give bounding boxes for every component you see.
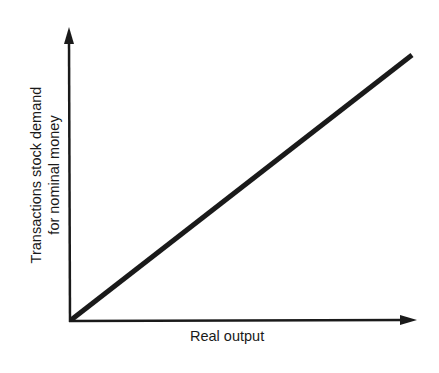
- x-axis-label: Real output: [190, 328, 264, 344]
- y-axis-label-line-2: for nominal money: [45, 87, 63, 264]
- demand-line: [71, 55, 412, 320]
- y-axis-label: Transactions stock demand for nominal mo…: [27, 87, 63, 264]
- y-axis-arrowhead-icon: [64, 27, 74, 44]
- x-axis-arrowhead-icon: [400, 315, 417, 325]
- y-axis: [69, 40, 70, 322]
- y-axis-label-line-1: Transactions stock demand: [27, 87, 45, 264]
- chart-canvas: [0, 0, 439, 373]
- x-axis: [69, 320, 404, 321]
